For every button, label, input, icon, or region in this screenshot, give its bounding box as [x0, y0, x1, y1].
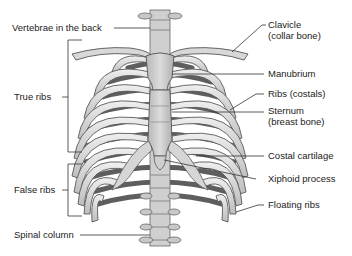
label-xiphoid-process: Xiphoid process: [268, 173, 336, 184]
label-clavicle-line1: Clavicle: [268, 19, 321, 30]
label-sternum-line1: Sternum: [268, 105, 325, 116]
label-clavicle-line2: (collar bone): [268, 30, 321, 41]
label-true-ribs: True ribs: [14, 91, 51, 102]
label-sternum-line2: (breast bone): [268, 116, 325, 127]
label-manubrium: Manubrium: [268, 68, 316, 79]
label-sternum: Sternum (breast bone): [268, 105, 325, 127]
label-floating-ribs: Floating ribs: [268, 199, 320, 210]
label-false-ribs: False ribs: [14, 184, 55, 195]
sternum-graphic: [148, 90, 172, 156]
label-costal-cartilage: Costal cartilage: [268, 150, 333, 161]
label-clavicle: Clavicle (collar bone): [268, 19, 321, 41]
label-spinal-column: Spinal column: [14, 229, 74, 240]
label-vertebrae: Vertebrae in the back: [12, 22, 102, 33]
rib-cage-diagram: Vertebrae in the back True ribs False ri…: [0, 0, 352, 256]
label-ribs-costals: Ribs (costals): [268, 88, 326, 99]
